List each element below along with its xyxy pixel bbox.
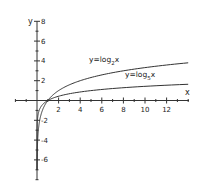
curves [37, 63, 188, 170]
y-tick-label: -4 [41, 137, 49, 145]
y-tick-label: -6 [41, 156, 49, 164]
y-tick-label: -2 [41, 117, 48, 125]
curve-label-log2: y=log2x [89, 55, 120, 66]
y-tick-label: 2 [41, 77, 45, 85]
curve-log5 [37, 84, 188, 170]
tick-labels: 246810128642-2-4-6 [41, 18, 171, 165]
x-tick-label: 10 [141, 106, 150, 114]
y-tick-label: 4 [41, 57, 46, 65]
x-tick-label: 8 [121, 106, 125, 114]
x-tick-label: 6 [100, 106, 105, 114]
y-tick-label: 6 [41, 38, 46, 46]
log-functions-chart: 246810128642-2-4-6 y=log2xy=log5x x y [0, 0, 199, 191]
y-tick-label: 8 [41, 18, 45, 26]
x-axis-label: x [185, 88, 190, 97]
x-tick-label: 4 [78, 106, 83, 114]
curve-log2 [37, 63, 188, 170]
y-axis-label: y [28, 17, 33, 26]
curve-label-log5: y=log5x [125, 70, 156, 81]
x-tick-label: 12 [162, 106, 171, 114]
x-tick-label: 2 [56, 106, 60, 114]
